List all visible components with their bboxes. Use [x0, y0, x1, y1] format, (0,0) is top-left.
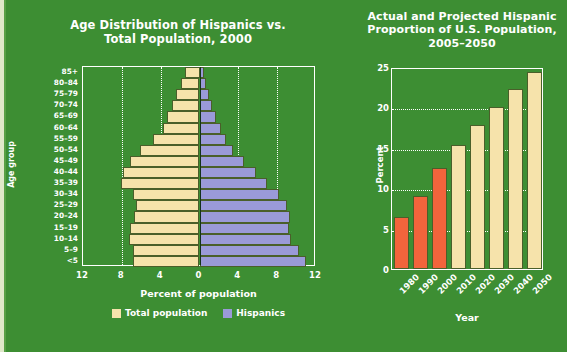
age-group-tick-label: 45–49: [54, 155, 78, 166]
age-pyramid-row: [83, 67, 314, 78]
age-pyramid-center-axis: [200, 67, 201, 265]
age-pyramid-bar-hispanics: [200, 156, 245, 167]
age-pyramid-bar-hispanics: [200, 223, 289, 234]
age-pyramid-bar-hispanics: [200, 234, 291, 245]
year-tick-label: 1980: [397, 272, 421, 296]
age-pyramid-row: [83, 134, 314, 145]
age-group-tick-label: 65–69: [54, 110, 78, 121]
age-pyramid-bar-hispanics: [200, 111, 217, 122]
hispanic-proportion-title: Actual and Projected Hispanic Proportion…: [364, 10, 560, 50]
hispanic-proportion-bar: [470, 125, 485, 269]
age-pyramid-bar-total-population: [130, 223, 200, 234]
year-tick-label: 2030: [492, 272, 516, 296]
age-pyramid-bar-total-population: [133, 245, 200, 256]
hispanic-proportion-title-line1: Actual and Projected Hispanic: [364, 10, 560, 23]
age-pyramid-bar-total-population: [181, 78, 199, 89]
age-pyramid-bar-hispanics: [200, 167, 256, 178]
age-pyramid-bar-total-population: [130, 156, 200, 167]
age-pyramid-row: [83, 111, 314, 122]
age-pyramid-row: [83, 156, 314, 167]
year-tick-label: 2020: [473, 272, 497, 296]
age-pyramid-bar-hispanics: [200, 89, 210, 100]
age-pyramid-row: [83, 256, 314, 267]
legend-item: Hispanics: [223, 308, 285, 318]
age-pyramid-bar-hispanics: [200, 200, 287, 211]
age-pyramid-bar-hispanics: [200, 123, 221, 134]
year-tick-label: 2000: [435, 272, 459, 296]
age-pyramid-x-tick-label: 8: [118, 270, 124, 280]
age-pyramid-bar-total-population: [121, 178, 200, 189]
age-pyramid-bar-hispanics: [200, 178, 268, 189]
age-group-tick-label: 50–54: [54, 144, 78, 155]
legend-item: Total population: [112, 308, 207, 318]
hispanic-proportion-bar: [451, 145, 466, 269]
age-group-tick-label: 55–59: [54, 133, 78, 144]
percent-tick-label: 10: [377, 184, 389, 194]
age-pyramid-title-line1: Age Distribution of Hispanics vs.: [38, 18, 318, 32]
hispanic-proportion-chart: Actual and Projected Hispanic Proportion…: [352, 0, 567, 352]
age-group-tick-label: 30–34: [54, 188, 78, 199]
age-pyramid-row: [83, 89, 314, 100]
age-pyramid-bar-hispanics: [200, 134, 226, 145]
hispanic-proportion-plot-area: [391, 68, 543, 270]
age-pyramid-bar-total-population: [153, 134, 200, 145]
age-pyramid-plot-area: [82, 66, 315, 266]
age-pyramid-bar-hispanics: [200, 145, 234, 156]
age-group-tick-label: 60–64: [54, 122, 78, 133]
age-pyramid-bar-total-population: [163, 123, 200, 134]
legend-swatch-icon: [223, 309, 232, 318]
age-pyramid-bar-hispanics: [200, 211, 290, 222]
figure-canvas: Age Distribution of Hispanics vs. Total …: [0, 0, 567, 352]
age-pyramid-chart: Age Distribution of Hispanics vs. Total …: [0, 0, 352, 352]
age-pyramid-bar-total-population: [140, 145, 199, 156]
age-group-tick-label: 20–24: [54, 210, 78, 221]
age-group-tick-label: 35–39: [54, 177, 78, 188]
age-pyramid-row: [83, 100, 314, 111]
age-pyramid-row: [83, 223, 314, 234]
legend-label: Total population: [125, 308, 207, 318]
age-group-tick-label: 75–79: [54, 88, 78, 99]
age-group-tick-label: 40–44: [54, 166, 78, 177]
age-pyramid-x-tick-label: 12: [76, 270, 88, 280]
age-pyramid-row: [83, 211, 314, 222]
legend-label: Hispanics: [236, 308, 285, 318]
age-pyramid-title: Age Distribution of Hispanics vs. Total …: [38, 18, 318, 46]
age-pyramid-bar-total-population: [167, 111, 199, 122]
age-group-tick-label: 5–9: [64, 244, 78, 255]
year-tick-label: 1990: [416, 272, 440, 296]
age-group-tick-label: <5: [67, 255, 78, 266]
age-pyramid-x-tick-labels: 128404812: [82, 270, 315, 284]
percent-tick-label: 5: [383, 225, 389, 235]
age-pyramid-bar-hispanics: [200, 78, 207, 89]
percent-tick-label: 15: [377, 144, 389, 154]
age-pyramid-bar-hispanics: [200, 256, 307, 267]
age-pyramid-bar-hispanics: [200, 245, 299, 256]
hispanic-proportion-title-line2: Proportion of U.S. Population,: [364, 23, 560, 36]
age-group-tick-labels: 85+80–8475–7970–7465–6960–6455–5950–5445…: [18, 66, 78, 266]
age-pyramid-row: [83, 234, 314, 245]
age-pyramid-bar-total-population: [136, 200, 199, 211]
age-pyramid-row: [83, 178, 314, 189]
age-pyramid-x-tick-label: 12: [309, 270, 321, 280]
year-axis-label: Year: [391, 312, 543, 323]
age-group-tick-label: 15–19: [54, 222, 78, 233]
age-pyramid-bar-total-population: [133, 189, 199, 200]
age-pyramid-x-tick-label: 0: [196, 270, 202, 280]
age-group-tick-label: 25–29: [54, 199, 78, 210]
percent-tick-label: 20: [377, 103, 389, 113]
age-pyramid-bar-hispanics: [200, 100, 213, 111]
age-pyramid-row: [83, 189, 314, 200]
age-pyramid-row: [83, 245, 314, 256]
hispanic-proportion-bar: [432, 168, 447, 269]
age-group-tick-label: 85+: [62, 66, 78, 77]
age-group-tick-label: 70–74: [54, 99, 78, 110]
age-pyramid-x-tick-label: 8: [273, 270, 279, 280]
age-pyramid-row: [83, 78, 314, 89]
age-pyramid-x-tick-label: 4: [157, 270, 163, 280]
hispanic-proportion-bar: [394, 217, 409, 269]
year-tick-labels: 19801990200020102020203020402050: [391, 272, 543, 306]
age-group-tick-label: 80–84: [54, 77, 78, 88]
year-tick-label: 2010: [454, 272, 478, 296]
age-pyramid-bar-total-population: [129, 234, 200, 245]
age-pyramid-title-line2: Total Population, 2000: [38, 32, 318, 46]
